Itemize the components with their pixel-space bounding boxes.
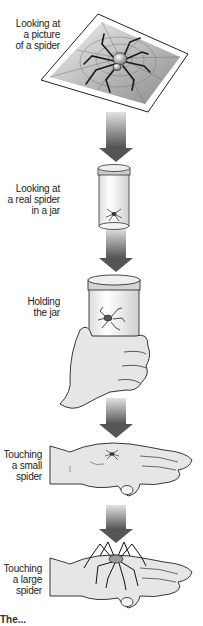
figure-caption: The... (0, 614, 203, 626)
arrow-1-icon (99, 112, 133, 162)
arrow-2-icon (99, 228, 133, 272)
hand-with-large-spider-illustration (50, 542, 192, 608)
jar-with-spider-illustration (98, 165, 130, 230)
hand-with-small-spider-illustration (50, 443, 192, 496)
hand-holding-jar-illustration (60, 275, 150, 415)
arrow-4-icon (99, 505, 133, 543)
arrow-3-icon (99, 398, 133, 438)
picture-of-spider-illustration (41, 14, 188, 112)
